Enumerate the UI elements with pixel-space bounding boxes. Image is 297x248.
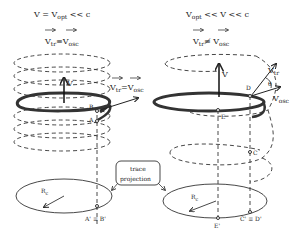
point-d: D [246,84,251,91]
left-velocity-label: V [66,79,73,88]
helix-trace-diagram: V = Vopt << c Vtr≡Vosc V Vtr=Vosc B A Vo… [0,0,297,248]
left-projection-label: A' ≡ B' [84,215,106,222]
left-title-line1: V = Vopt << c [33,10,91,21]
projection-cd: C' ≡ D' [240,215,262,222]
callout-line1: trace [130,165,146,172]
left-helix [14,54,110,151]
left-title-line2: Vtr≡Vosc [44,37,79,47]
point-a: A [88,116,94,123]
vtr-label: Vtr [267,66,279,76]
theta-label: θ [268,80,272,87]
right-radius-label: Rc [191,193,199,202]
right-title-line2: Vtr≢ Vosc [192,37,230,47]
projection-e: E' [214,222,220,229]
right-velocity-label: V [221,70,228,79]
left-side-label: Vtr=Vosc [109,83,144,93]
point-c: C [253,149,258,156]
right-title-line1: Vopt << V << c [185,10,249,21]
callout-line2: projection [120,175,151,183]
right-bold-ring [154,93,264,111]
left-radius-label: Rc [41,187,49,196]
point-e: E [221,113,225,120]
point-b: B [89,103,94,110]
vosc-label: Vosc [272,94,289,104]
